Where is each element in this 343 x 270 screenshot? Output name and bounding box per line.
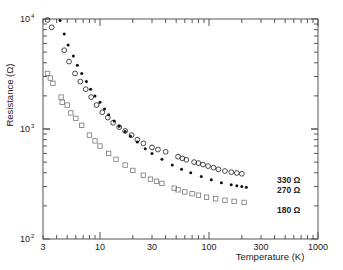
data-point (200, 175, 203, 178)
series-330 (45, 18, 244, 177)
data-point (94, 103, 99, 108)
data-point (232, 199, 236, 203)
y-tick-exponent: 4 (31, 13, 35, 19)
data-point (98, 144, 102, 148)
y-tick-exponent: 2 (31, 233, 35, 239)
data-point (89, 88, 92, 91)
x-tick-label: 1000 (308, 242, 328, 252)
x-tick-label: 100 (201, 242, 216, 252)
data-point (223, 198, 227, 202)
y-tick-label: 10 (20, 14, 30, 24)
data-point (245, 186, 248, 189)
data-point (183, 190, 187, 194)
data-point (87, 133, 91, 137)
data-point (171, 164, 174, 167)
data-point (160, 181, 164, 185)
x-tick-label: 3 (40, 242, 45, 252)
data-point (213, 197, 217, 201)
series-180 (45, 71, 246, 204)
data-point (206, 164, 211, 169)
series-label-270: 270 Ω (277, 185, 301, 195)
data-point (93, 139, 97, 143)
data-point (85, 80, 88, 83)
y-tick-label: 10 (20, 234, 30, 244)
data-point (242, 200, 246, 204)
data-point (234, 171, 239, 176)
data-point (211, 165, 216, 170)
data-point (103, 107, 106, 110)
data-point (100, 110, 105, 115)
data-point (80, 72, 83, 75)
data-point (154, 179, 158, 183)
data-point (65, 103, 69, 107)
data-points (45, 18, 248, 205)
data-point (144, 147, 147, 150)
data-point (156, 147, 161, 152)
data-point (131, 168, 135, 172)
x-axis-title: Temperature (K) (236, 251, 305, 262)
data-point (74, 116, 78, 120)
data-point (98, 101, 101, 104)
data-point (123, 163, 127, 167)
data-point (223, 169, 228, 174)
data-point (89, 95, 94, 100)
data-point (69, 111, 73, 115)
data-point (210, 178, 213, 181)
data-point (76, 64, 79, 67)
data-point (73, 71, 78, 76)
data-point (59, 95, 63, 99)
series-270 (59, 19, 248, 189)
data-point (62, 48, 67, 53)
data-point (83, 87, 88, 92)
data-point (51, 81, 55, 85)
data-point (45, 18, 50, 23)
data-point (136, 141, 139, 144)
data-point (148, 177, 152, 181)
data-point (59, 19, 62, 22)
series-label-180: 180 Ω (277, 205, 301, 215)
data-point (196, 193, 200, 197)
data-point (118, 125, 121, 128)
x-tick-label: 30 (147, 242, 157, 252)
y-tick-label: 10 (20, 124, 30, 134)
data-point (235, 184, 238, 187)
data-point (113, 120, 116, 123)
data-point (107, 113, 110, 116)
data-point (49, 25, 54, 30)
data-point (190, 192, 194, 196)
data-point (216, 167, 221, 172)
series-label-330: 330 Ω (277, 175, 301, 185)
y-tick-exponent: 3 (31, 123, 35, 129)
data-point (45, 71, 49, 75)
resistance-vs-temperature-chart: 310301003001000 102103104 Temperature (K… (0, 0, 343, 270)
data-point (151, 152, 154, 155)
data-point (141, 173, 145, 177)
data-point (67, 59, 72, 64)
data-point (180, 168, 183, 171)
data-point (60, 100, 64, 104)
data-point (124, 130, 127, 133)
data-point (239, 171, 244, 176)
data-point (67, 44, 70, 47)
data-point (78, 79, 83, 84)
data-point (163, 149, 168, 154)
data-point (80, 123, 84, 127)
data-point (106, 151, 110, 155)
x-tick-label: 10 (95, 242, 105, 252)
data-point (189, 171, 192, 174)
data-point (201, 162, 206, 167)
data-point (94, 94, 97, 97)
data-point (160, 158, 163, 161)
data-point (114, 157, 118, 161)
data-point (63, 33, 66, 36)
data-point (240, 185, 243, 188)
data-point (72, 55, 75, 58)
data-point (150, 145, 155, 150)
x-axis-ticks: 310301003001000 (40, 19, 328, 252)
data-point (129, 135, 132, 138)
data-point (48, 76, 52, 80)
data-point (204, 195, 208, 199)
data-point (230, 183, 233, 186)
data-point (220, 181, 223, 184)
data-point (229, 170, 234, 175)
